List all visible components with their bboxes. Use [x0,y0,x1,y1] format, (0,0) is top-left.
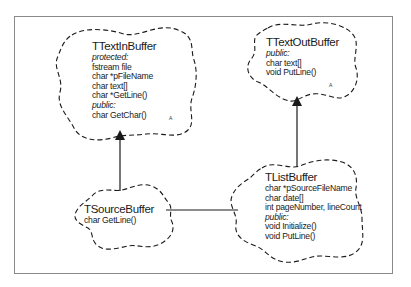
class-member: char GetLine() [84,216,154,226]
class-member: void PutLine() [266,68,339,78]
marker-label: A [169,115,172,121]
class-ttextinbuffer: TTextInBuffer protected: fstream file ch… [92,40,156,120]
marker-label: A [329,82,332,88]
class-tsourcebuffer: TSourceBuffer char GetLine() [84,203,154,226]
diagram-canvas: TTextInBuffer protected: fstream file ch… [0,0,411,287]
class-tlistbuffer: TListBuffer char *pSourceFileName char d… [265,171,362,242]
class-ttextoutbuffer: TTextOutBuffer public: char text[] void … [266,36,339,78]
class-member: char GetChar() [92,111,156,121]
diagram-shapes [0,0,411,287]
arrowhead-icon [115,130,125,140]
class-member: void PutLine() [265,232,362,242]
